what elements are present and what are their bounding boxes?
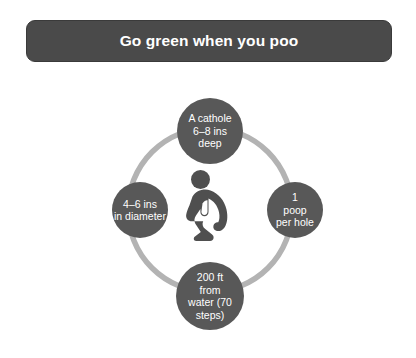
node-top[interactable]: A cathole 6–8 ins deep xyxy=(177,98,243,164)
title-banner: Go green when you poo xyxy=(26,20,392,62)
cycle-diagram: A cathole 6–8 ins deep 1 poop per hole 2… xyxy=(0,68,416,358)
node-top-label: A cathole 6–8 ins deep xyxy=(186,112,233,150)
infographic-container: Go green when you poo A cathole 6–8 ins … xyxy=(0,0,416,358)
node-right[interactable]: 1 poop per hole xyxy=(267,182,323,238)
node-left-label: 4–6 ins in diameter xyxy=(112,198,168,223)
node-left[interactable]: 4–6 ins in diameter xyxy=(112,182,168,238)
page-title: Go green when you poo xyxy=(120,33,299,49)
node-bottom[interactable]: 200 ft from water (70 steps) xyxy=(176,262,244,330)
squatting-person-icon xyxy=(183,170,239,242)
node-bottom-label: 200 ft from water (70 steps) xyxy=(186,271,234,321)
node-right-label: 1 poop per hole xyxy=(274,191,316,229)
